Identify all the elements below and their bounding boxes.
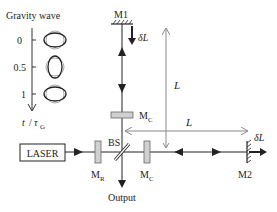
delta-l-m1-label: δL [138, 32, 149, 43]
m1-label: M1 [114, 9, 128, 20]
delta-l-m1-arrow-icon [128, 38, 136, 45]
beam-left-arrow-icon [174, 148, 183, 156]
mirror-mr [95, 141, 101, 163]
delta-l-m2-arrow-icon [260, 148, 267, 156]
mirror-m1 [111, 20, 133, 24]
output-arrow-icon [118, 180, 126, 188]
gravity-wave-title: Gravity wave [6, 10, 61, 21]
ring-t1-icon [44, 85, 66, 103]
m2-label: M2 [238, 169, 252, 180]
beam-right-arrow-icon [212, 148, 221, 156]
gravity-wave-panel: Gravity wave 0 0.5 1 t / τ G [6, 10, 66, 131]
mirror-mc-horizontal [144, 141, 150, 163]
time-label-t: t [22, 117, 25, 128]
output-label: Output [108, 192, 136, 203]
mr-sub: R [100, 175, 105, 183]
beam-up-arrow-icon [118, 47, 126, 56]
beam-down-arrow-icon [118, 84, 126, 93]
interferometer-diagram: Gravity wave 0 0.5 1 t / τ G [0, 0, 277, 212]
mr-label: M [91, 169, 100, 180]
mc-vertical-sub: C [148, 116, 153, 124]
bs-label: BS [108, 137, 120, 148]
delta-l-m2-label: δL [254, 132, 265, 143]
mirror-mc-vertical [111, 112, 133, 118]
ring-t0-icon [44, 31, 66, 49]
tick-1: 1 [21, 89, 26, 100]
mc-horizontal-sub: C [149, 175, 154, 183]
mc-horizontal-label: M [140, 169, 149, 180]
time-label-sub: G [40, 123, 45, 131]
tick-0-5: 0.5 [14, 62, 27, 73]
ring-t05-icon [46, 56, 64, 78]
time-label-sep: / [29, 117, 32, 128]
laser-label: LASER [27, 148, 59, 159]
time-label-tau: τ [34, 117, 38, 128]
mc-vertical-label: M [139, 110, 148, 121]
tick-0: 0 [17, 35, 22, 46]
horizontal-l-label: L [185, 116, 192, 128]
laser-beam-arrow-icon [74, 148, 83, 156]
vertical-l-label: L [173, 79, 180, 91]
